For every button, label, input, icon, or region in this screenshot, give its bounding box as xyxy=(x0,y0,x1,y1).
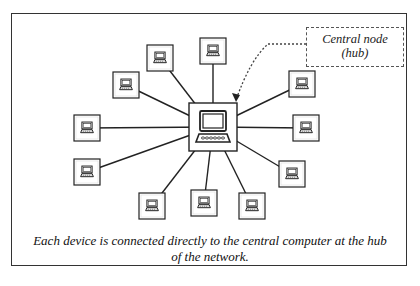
laptop-icon xyxy=(198,197,211,208)
laptop-icon xyxy=(81,166,94,177)
device-6 xyxy=(293,115,319,141)
device-2 xyxy=(147,45,173,71)
laptop-display xyxy=(156,53,164,57)
device-8 xyxy=(279,161,305,187)
laptop-display xyxy=(302,123,310,127)
laptop-display xyxy=(83,123,91,127)
computer-icon xyxy=(196,111,230,142)
device-3 xyxy=(200,38,226,64)
laptop-display xyxy=(148,201,156,205)
hub-key xyxy=(205,137,208,139)
laptop-icon xyxy=(154,52,167,63)
laptop-display xyxy=(248,201,256,205)
laptop-display xyxy=(200,198,208,202)
device-5 xyxy=(74,115,100,141)
laptop-icon xyxy=(246,200,259,211)
figure-caption: Each device is connected directly to the… xyxy=(30,233,390,265)
hub-key xyxy=(217,137,220,139)
hub-key xyxy=(221,137,224,139)
central-hub xyxy=(189,103,237,151)
laptop-display xyxy=(122,80,130,84)
callout-line-2: (hub) xyxy=(307,46,403,60)
device-10 xyxy=(191,190,217,216)
device-9 xyxy=(139,193,165,219)
laptop-icon xyxy=(120,79,133,90)
callout-line-1: Central node xyxy=(307,32,403,46)
laptop-display xyxy=(83,167,91,171)
device-1 xyxy=(113,72,139,98)
hub-screen xyxy=(203,114,223,128)
device-7 xyxy=(74,159,100,185)
laptop-icon xyxy=(81,122,94,133)
laptop-icon xyxy=(300,122,313,133)
laptop-display xyxy=(288,169,296,173)
laptop-display xyxy=(298,79,306,83)
laptop-icon xyxy=(286,168,299,179)
hub-key xyxy=(209,137,212,139)
laptop-icon xyxy=(146,200,159,211)
device-4 xyxy=(289,71,315,97)
laptop-icon xyxy=(207,45,220,56)
laptop-icon xyxy=(296,78,309,89)
laptop-display xyxy=(209,46,217,50)
hub-key xyxy=(201,137,204,139)
device-11 xyxy=(239,193,265,219)
hub-key xyxy=(213,137,216,139)
callout-arrowhead xyxy=(232,93,240,102)
central-node-callout: Central node (hub) xyxy=(306,27,404,67)
